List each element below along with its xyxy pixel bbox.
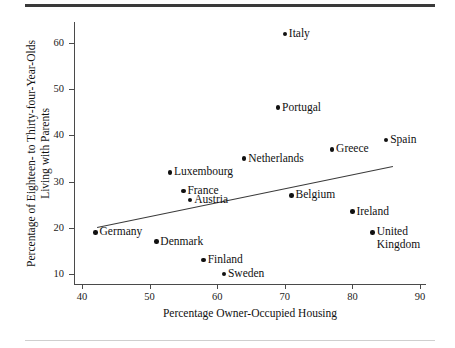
data-point-label: Spain bbox=[390, 133, 416, 146]
data-point bbox=[222, 272, 227, 277]
y-tick-40 bbox=[69, 135, 74, 136]
data-point bbox=[384, 138, 389, 143]
data-point bbox=[154, 239, 159, 244]
x-tick-70 bbox=[285, 284, 286, 289]
x-tick-40 bbox=[82, 284, 83, 289]
data-point-label: Austria bbox=[194, 193, 228, 206]
data-point-label: Germany bbox=[100, 225, 143, 238]
data-point bbox=[242, 156, 247, 161]
x-tick-label-50: 50 bbox=[135, 292, 165, 302]
data-point bbox=[188, 198, 193, 203]
data-point-label: United Kingdom bbox=[377, 225, 439, 250]
y-axis-title-line1: Percentage of Eighteen- to Thirty-four-Y… bbox=[25, 40, 37, 267]
data-point-label: Netherlands bbox=[248, 152, 304, 165]
data-point-label: Denmark bbox=[160, 235, 203, 248]
y-tick-10 bbox=[69, 274, 74, 275]
data-point bbox=[289, 193, 294, 198]
data-point bbox=[181, 189, 186, 194]
x-axis-title: Percentage Owner-Occupied Housing bbox=[74, 307, 426, 319]
top-horizontal-rule bbox=[25, 4, 435, 7]
data-point-label: Greece bbox=[336, 142, 369, 155]
y-tick-50 bbox=[69, 89, 74, 90]
regression-line bbox=[97, 166, 393, 228]
x-tick-80 bbox=[352, 284, 353, 289]
x-tick-90 bbox=[420, 284, 421, 289]
x-tick-label-80: 80 bbox=[337, 292, 367, 302]
x-tick-60 bbox=[217, 284, 218, 289]
data-point-label: Belgium bbox=[296, 188, 336, 201]
data-point-label: Luxembourg bbox=[174, 165, 233, 178]
y-axis-title-line2: Living with Parents bbox=[38, 20, 52, 288]
y-tick-30 bbox=[69, 182, 74, 183]
data-point-label: Finland bbox=[208, 253, 243, 266]
y-tick-20 bbox=[69, 228, 74, 229]
data-point bbox=[168, 170, 173, 175]
bottom-horizontal-rule bbox=[25, 340, 435, 341]
x-tick-label-40: 40 bbox=[67, 292, 97, 302]
data-point-label: Portugal bbox=[282, 101, 321, 114]
scatter-plot-figure: 102030405060 405060708090 ItalyPortugalS… bbox=[0, 0, 455, 348]
data-point-label: Sweden bbox=[228, 267, 264, 280]
data-point-label: Italy bbox=[289, 27, 310, 40]
y-tick-60 bbox=[69, 43, 74, 44]
y-axis-title: Percentage of Eighteen- to Thirty-four-Y… bbox=[25, 20, 52, 288]
data-point bbox=[330, 147, 335, 152]
data-point bbox=[201, 258, 206, 263]
data-point bbox=[350, 209, 355, 214]
data-point bbox=[93, 230, 98, 235]
x-axis-line bbox=[74, 284, 426, 285]
y-axis-line bbox=[74, 22, 75, 284]
x-tick-label-60: 60 bbox=[202, 292, 232, 302]
data-point bbox=[370, 230, 375, 235]
x-tick-50 bbox=[150, 284, 151, 289]
x-tick-label-70: 70 bbox=[270, 292, 300, 302]
x-tick-label-90: 90 bbox=[405, 292, 435, 302]
data-point bbox=[276, 105, 281, 110]
data-point-label: Ireland bbox=[356, 205, 389, 218]
data-point bbox=[283, 32, 288, 37]
